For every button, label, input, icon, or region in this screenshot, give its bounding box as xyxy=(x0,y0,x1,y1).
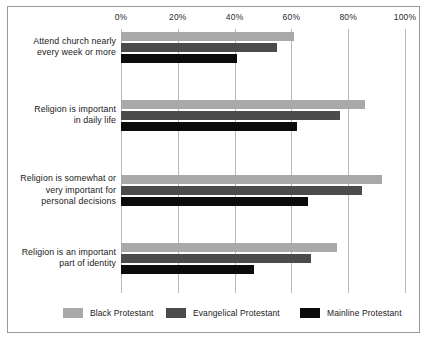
gridline-80pct xyxy=(348,29,349,293)
category-label-line: Religion is important xyxy=(4,104,116,116)
category-label: Attend church nearlyevery week or more xyxy=(4,36,116,59)
x-tick-label: 0% xyxy=(115,12,128,22)
chart-legend: Black ProtestantEvangelical ProtestantMa… xyxy=(0,306,432,324)
legend-label: Black Protestant xyxy=(90,308,154,318)
bar-chart: 0%20%40%60%80%100% Attend church nearlye… xyxy=(0,0,432,348)
category-label-line: very important for xyxy=(4,185,116,197)
legend-swatch-icon xyxy=(63,308,83,318)
x-tick-label: 100% xyxy=(394,12,417,22)
bar xyxy=(121,175,382,184)
bar xyxy=(121,111,340,120)
bar xyxy=(121,54,237,63)
bar xyxy=(121,100,365,109)
bar xyxy=(121,243,337,252)
bar xyxy=(121,32,294,41)
legend-label: Mainline Protestant xyxy=(327,308,402,318)
x-tick-label: 80% xyxy=(339,12,357,22)
bar xyxy=(121,254,311,263)
category-label-line: personal decisions xyxy=(4,196,116,208)
legend-swatch-icon xyxy=(300,308,320,318)
x-tick-label: 40% xyxy=(226,12,244,22)
bar xyxy=(121,43,277,52)
legend-label: Evangelical Protestant xyxy=(193,308,280,318)
x-tick-label: 60% xyxy=(283,12,301,22)
legend-item[interactable]: Black Protestant xyxy=(63,306,154,320)
gridline-100pct xyxy=(405,29,406,293)
legend-swatch-icon xyxy=(166,308,186,318)
bar xyxy=(121,186,362,195)
category-label-line: part of identity xyxy=(4,258,116,270)
bar xyxy=(121,197,308,206)
bar xyxy=(121,265,254,274)
category-label-line: Attend church nearly xyxy=(4,36,116,48)
bar xyxy=(121,122,297,131)
category-label-line: every week or more xyxy=(4,47,116,59)
category-label: Religion is somewhat orvery important fo… xyxy=(4,173,116,208)
category-label: Religion is an importantpart of identity xyxy=(4,247,116,270)
category-label-line: Religion is somewhat or xyxy=(4,173,116,185)
category-label-line: in daily life xyxy=(4,115,116,127)
category-label: Religion is importantin daily life xyxy=(4,104,116,127)
category-label-line: Religion is an important xyxy=(4,247,116,259)
legend-item[interactable]: Evangelical Protestant xyxy=(166,306,280,320)
x-tick-label: 20% xyxy=(169,12,187,22)
legend-item[interactable]: Mainline Protestant xyxy=(300,306,402,320)
